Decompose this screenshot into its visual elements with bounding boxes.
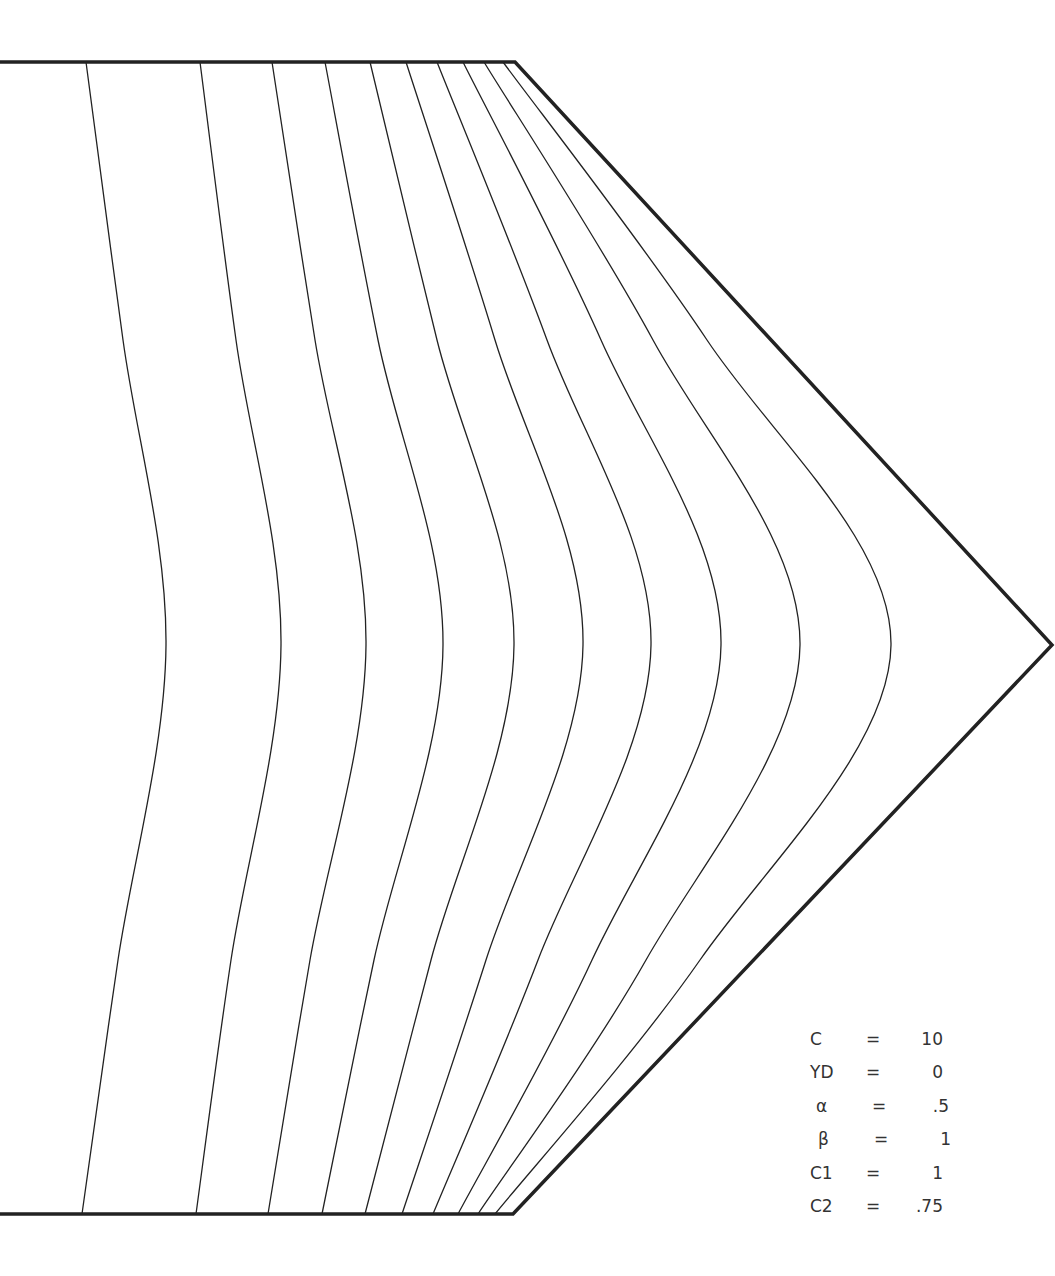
param-row-c1: C1 = 1 bbox=[810, 1156, 951, 1190]
equals-sign: = bbox=[855, 1196, 891, 1216]
param-name: YD bbox=[810, 1062, 855, 1082]
grid-curve bbox=[82, 62, 166, 1214]
param-row-yd: YD = 0 bbox=[810, 1056, 951, 1090]
param-value: 10 bbox=[891, 1029, 943, 1049]
param-row-alpha: α = .5 bbox=[810, 1089, 951, 1123]
grid-curve bbox=[322, 62, 443, 1214]
grid-curve bbox=[458, 62, 721, 1214]
grid-curve bbox=[268, 62, 366, 1214]
grid-curves bbox=[82, 62, 891, 1214]
param-name: C2 bbox=[810, 1196, 855, 1216]
param-value: .5 bbox=[897, 1096, 949, 1116]
equals-sign: = bbox=[861, 1096, 897, 1116]
grid-curve bbox=[196, 62, 281, 1214]
param-row-c: C = 10 bbox=[810, 1022, 951, 1056]
param-value: 1 bbox=[891, 1163, 943, 1183]
param-value: 0 bbox=[891, 1062, 943, 1082]
parameter-table: C = 10 YD = 0 α = .5 β = 1 C1 = 1 C2 = .… bbox=[810, 1022, 951, 1223]
param-name: C bbox=[810, 1029, 855, 1049]
param-value: 1 bbox=[899, 1129, 951, 1149]
param-row-beta: β = 1 bbox=[810, 1123, 951, 1157]
param-name: α bbox=[810, 1096, 861, 1116]
equals-sign: = bbox=[855, 1062, 891, 1082]
grid-curve bbox=[365, 62, 514, 1214]
grid-curve bbox=[433, 62, 651, 1214]
param-row-c2: C2 = .75 bbox=[810, 1190, 951, 1224]
param-value: .75 bbox=[891, 1196, 943, 1216]
grid-curve bbox=[402, 62, 583, 1214]
param-name: C1 bbox=[810, 1163, 855, 1183]
param-name: β bbox=[810, 1129, 863, 1149]
equals-sign: = bbox=[855, 1163, 891, 1183]
equals-sign: = bbox=[863, 1129, 899, 1149]
equals-sign: = bbox=[855, 1029, 891, 1049]
